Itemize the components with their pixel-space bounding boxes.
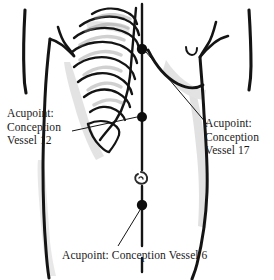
acupoint-label-cv6-line1: Acupoint: Conception Vessel 6 [62,249,207,263]
acupoint-dot-cv12[interactable] [137,112,147,122]
acupuncture-torso-figure: Acupoint: Conception Vessel 12 Acupoint:… [0,0,274,280]
acupoint-label-cv17-line2: Conception [205,131,259,145]
acupoint-label-cv17-line3: Vessel 17 [205,144,259,158]
acupoint-dot-cv17[interactable] [137,44,147,54]
right-arm-outline [249,10,251,90]
acupoint-label-cv12-line1: Acupoint: [7,107,61,121]
acupoint-label-cv12: Acupoint: Conception Vessel 12 [7,107,61,148]
acupoint-label-cv17: Acupoint: Conception Vessel 17 [205,117,259,158]
acupoint-label-cv17-line1: Acupoint: [205,117,259,131]
acupoint-label-cv6: Acupoint: Conception Vessel 6 [62,249,207,263]
acupoint-label-cv12-line3: Vessel 12 [7,134,61,148]
acupoint-dot-cv6[interactable] [137,200,147,210]
acupoint-label-cv12-line2: Conception [7,121,61,135]
